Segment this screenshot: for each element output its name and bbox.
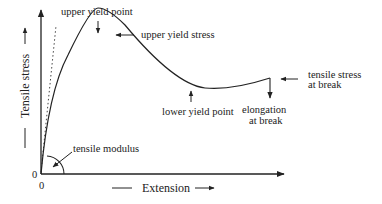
tensile-modulus-label: tensile modulus — [73, 143, 139, 154]
x-origin-label: 0 — [39, 180, 44, 191]
y-origin-label: 0 — [32, 169, 37, 180]
diagram-canvas: 0 0 upper yield point upper yield stress… — [0, 0, 382, 204]
stress-strain-diagram: 0 0 upper yield point upper yield stress… — [0, 0, 382, 204]
upper-yield-stress-label: upper yield stress — [141, 29, 215, 40]
lower-yield-point-label: lower yield point — [162, 106, 234, 117]
elongation-at-break-label-2: at break — [249, 115, 283, 126]
y-axis-label: Tensile stress — [18, 54, 32, 118]
upper-yield-point-label: upper yield point — [61, 6, 133, 17]
tensile-stress-at-break-label-2: at break — [308, 79, 342, 90]
x-axis-label: Extension — [142, 181, 190, 195]
elongation-at-break-label-1: elongation — [242, 104, 287, 115]
